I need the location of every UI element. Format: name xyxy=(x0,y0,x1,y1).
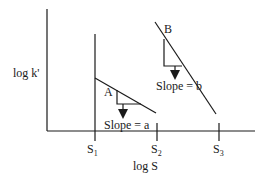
tick-label-s1: S1 xyxy=(87,143,98,160)
tick-label-s2-sub: 2 xyxy=(158,149,162,158)
slope-a-label: Slope = a xyxy=(104,119,149,131)
tick-label-s3-base: S xyxy=(213,142,220,156)
tick-label-s1-sub: 1 xyxy=(94,149,98,158)
log-k-vs-log-s-diagram: log k' log S S1 S2 S3 A B Slope = a Slop… xyxy=(0,0,266,180)
arrow-down-icon-b xyxy=(170,66,180,80)
line-b-label: B xyxy=(164,23,172,35)
line-a-label: A xyxy=(104,86,113,98)
x-axis-label: log S xyxy=(133,160,158,172)
y-axis-label: log k' xyxy=(13,67,40,79)
tick-label-s3: S3 xyxy=(213,143,224,160)
tick-label-s2-base: S xyxy=(151,142,158,156)
tick-label-s1-base: S xyxy=(87,142,94,156)
tick-label-s3-sub: 3 xyxy=(220,149,224,158)
diagram-canvas xyxy=(0,0,266,180)
arrow-down-icon-a xyxy=(118,104,128,119)
slope-triangle-b xyxy=(164,39,182,66)
tick-label-s2: S2 xyxy=(151,143,162,160)
slope-b-label: Slope = b xyxy=(156,80,202,92)
